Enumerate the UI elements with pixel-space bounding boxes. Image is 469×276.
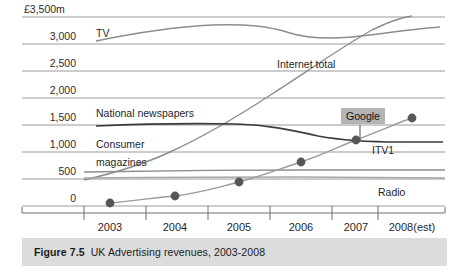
google-data-markers xyxy=(106,114,417,208)
y-tick-3000: 3,000 xyxy=(50,30,76,42)
figure-number: Figure 7.5 xyxy=(34,246,85,258)
series-label-magazines: magazines xyxy=(96,156,147,168)
series-line-magazines xyxy=(84,170,445,172)
google-callout: Google xyxy=(341,108,385,140)
series-label-itv1: ITV1 xyxy=(372,144,394,156)
figure-caption-title: UK Advertising revenues, 2003-2008 xyxy=(91,246,265,258)
series-label-newspapers: National newspapers xyxy=(96,107,194,119)
google-marker-2004 xyxy=(171,192,180,201)
google-marker-2008 xyxy=(408,114,417,123)
figure-caption-band: Figure 7.5 UK Advertising revenues, 2003… xyxy=(22,238,447,266)
x-tick-label-2006: 2006 xyxy=(289,221,313,233)
x-axis-labels: 2003 2004 2005 2006 2007 2008(est) xyxy=(98,221,435,233)
series-line-tv xyxy=(96,25,440,41)
series-label-tv: TV xyxy=(96,27,109,39)
google-marker-2003 xyxy=(106,199,115,208)
series-label-google: Google xyxy=(346,110,380,122)
x-axis xyxy=(22,206,445,220)
line-chart: £3,500m 3,000 2,500 2,000 1,500 1,000 50… xyxy=(0,0,469,233)
y-tick-3500: £3,500m xyxy=(24,3,65,15)
y-tick-1000: 1,000 xyxy=(50,138,76,150)
x-tick-label-2004: 2004 xyxy=(163,221,187,233)
series-line-radio xyxy=(84,177,445,178)
series-label-radio: Radio xyxy=(378,186,406,198)
x-tick-label-2003: 2003 xyxy=(98,221,122,233)
y-axis-labels: £3,500m 3,000 2,500 2,000 1,500 1,000 50… xyxy=(24,3,76,204)
series-line-google xyxy=(110,118,412,203)
google-marker-2006 xyxy=(297,158,306,167)
google-marker-2005 xyxy=(235,178,244,187)
figure-container: £3,500m 3,000 2,500 2,000 1,500 1,000 50… xyxy=(0,0,469,276)
figure-caption: Figure 7.5 UK Advertising revenues, 2003… xyxy=(22,246,265,258)
series-label-consumer: Consumer xyxy=(96,138,145,150)
chart-plot-area: £3,500m 3,000 2,500 2,000 1,500 1,000 50… xyxy=(0,0,469,233)
y-tick-1500: 1,500 xyxy=(50,111,76,123)
y-tick-2500: 2,500 xyxy=(50,57,76,69)
x-tick-label-2005: 2005 xyxy=(227,221,251,233)
x-tick-label-2008: 2008(est) xyxy=(389,221,435,233)
y-tick-0: 0 xyxy=(70,192,76,204)
y-tick-2000: 2,000 xyxy=(50,84,76,96)
y-tick-500: 500 xyxy=(58,165,76,177)
series-label-internet: Internet total xyxy=(277,58,335,70)
x-tick-label-2007: 2007 xyxy=(344,221,368,233)
google-marker-2007 xyxy=(352,136,361,145)
